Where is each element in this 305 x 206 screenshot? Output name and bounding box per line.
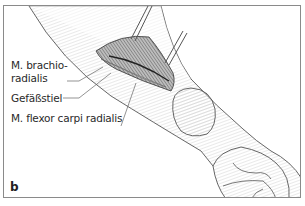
skin-island-marking xyxy=(173,88,216,136)
label-brachioradialis: M. brachio- radialis xyxy=(11,59,68,85)
label-brachioradialis-line1: M. brachio- xyxy=(11,59,68,72)
anatomical-figure: M. brachio- radialis Gefäßstiel M. flexo… xyxy=(3,5,301,198)
panel-letter: b xyxy=(10,180,19,194)
label-brachioradialis-line2: radialis xyxy=(11,72,68,85)
label-gefaessstiel: Gefäßstiel xyxy=(11,92,62,105)
label-flexor-carpi-radialis: M. flexor carpi radialis xyxy=(11,112,122,125)
